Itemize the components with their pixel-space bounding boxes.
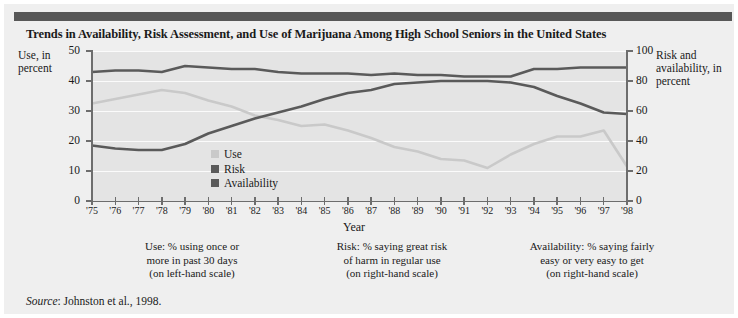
left-tick-label: 50 <box>54 44 80 56</box>
footnote-line: of harm in regular use <box>292 254 492 268</box>
right-tick <box>627 140 633 142</box>
x-tick <box>440 197 442 205</box>
legend-item-use[interactable]: Use <box>211 147 278 162</box>
legend-swatch-icon <box>211 165 219 173</box>
x-tick-label: '93 <box>500 205 522 216</box>
left-tick <box>86 110 92 112</box>
left-tick-label: 0 <box>54 194 80 206</box>
footnotes: Use: % using once ormore in past 30 days… <box>92 240 692 281</box>
right-tick-label: 20 <box>636 164 648 176</box>
x-tick-label: '98 <box>616 205 638 216</box>
x-tick <box>115 197 117 205</box>
source-label: Source <box>26 295 58 307</box>
right-tick-label: 60 <box>636 104 648 116</box>
top-rule-bar <box>14 12 732 21</box>
x-tick <box>510 197 512 205</box>
footnote-3: Availability: % saying fairlyeasy or ver… <box>492 240 692 281</box>
x-tick-label: '87 <box>360 205 382 216</box>
footnote-line: (on right-hand scale) <box>492 267 692 281</box>
x-tick-label: '94 <box>523 205 545 216</box>
x-tick <box>603 197 605 205</box>
right-tick <box>627 80 633 82</box>
x-tick-label: '82 <box>244 205 266 216</box>
right-tick <box>627 110 633 112</box>
legend: UseRiskAvailability <box>211 147 278 191</box>
footnote-line: Use: % using once or <box>92 240 292 254</box>
x-tick-label: '97 <box>593 205 615 216</box>
right-tick-label: 40 <box>636 134 648 146</box>
x-tick-label: '86 <box>337 205 359 216</box>
legend-label: Availability <box>224 176 278 191</box>
x-tick-label: '84 <box>290 205 312 216</box>
left-tick-label: 30 <box>54 104 80 116</box>
footnote-line: Risk: % saying great risk <box>292 240 492 254</box>
x-tick-label: '91 <box>453 205 475 216</box>
footnote-line: easy or very easy to get <box>492 254 692 268</box>
x-axis-line <box>92 201 627 203</box>
x-tick <box>277 197 279 205</box>
right-tick <box>627 170 633 172</box>
x-tick <box>463 197 465 205</box>
right-tick-label: 80 <box>636 74 648 86</box>
left-axis-line <box>91 50 93 202</box>
legend-label: Use <box>224 147 242 162</box>
footnote-line: (on right-hand scale) <box>292 267 492 281</box>
x-tick <box>487 197 489 205</box>
left-tick <box>86 50 92 52</box>
x-tick <box>161 197 163 205</box>
plot-area <box>92 51 627 201</box>
x-tick-label: '81 <box>221 205 243 216</box>
x-tick-label: '79 <box>174 205 196 216</box>
left-tick-label: 10 <box>54 164 80 176</box>
left-tick-label: 20 <box>54 134 80 146</box>
right-tick <box>627 50 633 52</box>
x-tick <box>184 197 186 205</box>
legend-item-risk[interactable]: Risk <box>211 162 278 177</box>
x-tick-label: '83 <box>267 205 289 216</box>
x-tick <box>208 197 210 205</box>
x-tick-label: '88 <box>383 205 405 216</box>
footnote-2: Risk: % saying great riskof harm in regu… <box>292 240 492 281</box>
right-axis-title: Risk and availability, in percent <box>656 49 736 88</box>
x-tick <box>91 197 93 205</box>
x-tick-label: '92 <box>476 205 498 216</box>
legend-swatch-icon <box>211 179 219 187</box>
left-tick <box>86 80 92 82</box>
legend-label: Risk <box>224 162 245 177</box>
x-tick <box>231 197 233 205</box>
legend-item-availability[interactable]: Availability <box>211 176 278 191</box>
page-title: Trends in Availability, Risk Assessment,… <box>26 27 726 42</box>
x-axis-title: Year <box>4 220 704 235</box>
x-tick <box>394 197 396 205</box>
source-note: Source: Johnston et al., 1998. <box>26 295 161 307</box>
x-tick-label: '76 <box>104 205 126 216</box>
x-tick-label: '75 <box>81 205 103 216</box>
x-tick <box>138 197 140 205</box>
x-tick-label: '78 <box>151 205 173 216</box>
footnote-line: more in past 30 days <box>92 254 292 268</box>
left-tick-label: 40 <box>54 74 80 86</box>
right-axis-line <box>626 50 628 202</box>
left-tick <box>86 140 92 142</box>
x-tick <box>301 197 303 205</box>
x-tick-label: '80 <box>197 205 219 216</box>
series-lines <box>92 51 627 201</box>
x-tick-label: '89 <box>407 205 429 216</box>
x-tick-label: '77 <box>128 205 150 216</box>
x-tick <box>556 197 558 205</box>
footnote-line: (on left-hand scale) <box>92 267 292 281</box>
figure-panel: Trends in Availability, Risk Assessment,… <box>0 0 738 318</box>
x-tick-label: '85 <box>314 205 336 216</box>
source-text: : Johnston et al., 1998. <box>58 295 162 307</box>
x-tick <box>324 197 326 205</box>
right-tick <box>627 200 633 202</box>
footnote-1: Use: % using once ormore in past 30 days… <box>92 240 292 281</box>
x-tick <box>580 197 582 205</box>
left-tick <box>86 170 92 172</box>
x-tick <box>626 197 628 205</box>
x-tick-label: '96 <box>569 205 591 216</box>
x-tick-label: '90 <box>430 205 452 216</box>
series-line-availability <box>92 66 627 77</box>
x-tick <box>370 197 372 205</box>
x-tick <box>533 197 535 205</box>
